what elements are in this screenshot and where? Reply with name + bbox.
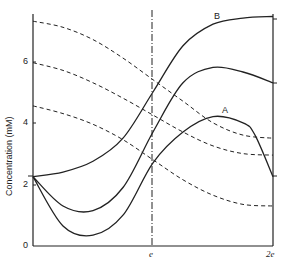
y-tick-label-0: 0 <box>23 240 28 250</box>
curve-label-a: A <box>222 105 228 115</box>
y-axis-title: Concentration (mM) <box>4 116 14 196</box>
series-a <box>33 116 273 236</box>
x-tick-label-2e: 2e <box>266 249 275 259</box>
chart-plot <box>0 0 284 263</box>
y-tick-label-6: 6 <box>23 56 28 66</box>
series-layer <box>33 17 273 236</box>
y-tick-label-2: 2 <box>23 179 28 189</box>
series-dashed-2 <box>33 63 273 155</box>
y-tick-label-4: 4 <box>23 117 28 127</box>
curve-label-b: B <box>214 11 220 21</box>
x-tick-label-e: e <box>149 249 153 259</box>
series-middle-solid <box>33 67 273 212</box>
